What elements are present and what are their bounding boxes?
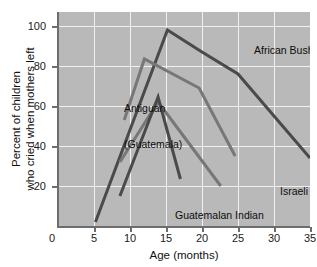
x-tick-label: 35 [295,233,317,244]
x-tick-label: 20 [187,233,217,244]
y-tick-mark [52,186,57,188]
x-tick-label: 15 [151,233,181,244]
series-label-guatemalan-indian: Guatemalan Indian [175,209,264,221]
y-axis-title-line2: who cried when mothers left [23,4,37,234]
y-tick-mark [52,106,57,108]
x-tick-label: 0 [37,233,67,244]
x-tick-label: 10 [115,233,145,244]
chart-figure: Antiguan (Guatemala) African Bushman Isr… [0,0,317,267]
x-tick-label: 25 [223,233,253,244]
series-label-israeli-kibbutzim: Israeli kibbutzim [280,185,310,197]
x-tick-label: 30 [259,233,289,244]
y-axis-title: Percent of children who cried when mothe… [9,4,37,234]
series-label-african-bushman: African Bushman [254,44,310,56]
series-label-antiguan-line2: (Guatemala) [124,138,182,150]
series-label-antiguan-line1: Antiguan [124,102,182,114]
y-tick-mark [52,66,57,68]
y-axis-line [57,12,59,227]
y-tick-mark [52,26,57,28]
plot-area: Antiguan (Guatemala) African Bushman Isr… [58,12,310,226]
x-tick-label: 5 [79,233,109,244]
y-axis-title-line1: Percent of children [9,4,23,234]
series-label-antiguan: Antiguan (Guatemala) [124,78,182,174]
y-tick-mark [52,146,57,148]
x-axis-title: Age (months) [58,249,310,261]
